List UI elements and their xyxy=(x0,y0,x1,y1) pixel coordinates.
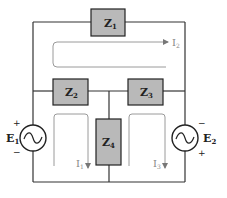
ac-source-e2: − E2 + xyxy=(172,118,216,158)
svg-text:I3: I3 xyxy=(153,158,161,170)
svg-text:E1: E1 xyxy=(6,132,19,146)
svg-text:I1: I1 xyxy=(76,158,84,170)
impedance-z4: Z4 xyxy=(96,119,121,165)
svg-text:E2: E2 xyxy=(203,132,216,146)
impedance-z3: Z3 xyxy=(128,79,163,105)
impedance-z2: Z2 xyxy=(53,79,88,105)
circuit-diagram: Z1 Z2 Z3 Z4 + E1 − − E2 + I2 I1 I xyxy=(0,0,227,198)
impedance-z1: Z1 xyxy=(91,9,125,36)
svg-text:I2: I2 xyxy=(172,37,180,49)
ac-source-e1: + E1 − xyxy=(6,118,46,157)
svg-text:−: − xyxy=(13,147,21,157)
svg-text:+: + xyxy=(13,118,21,128)
loop-current-i1: I1 xyxy=(54,114,88,170)
svg-text:−: − xyxy=(198,118,206,128)
loop-current-i3: I3 xyxy=(129,114,165,170)
svg-text:+: + xyxy=(198,148,206,158)
loop-current-i2: I2 xyxy=(53,37,180,67)
